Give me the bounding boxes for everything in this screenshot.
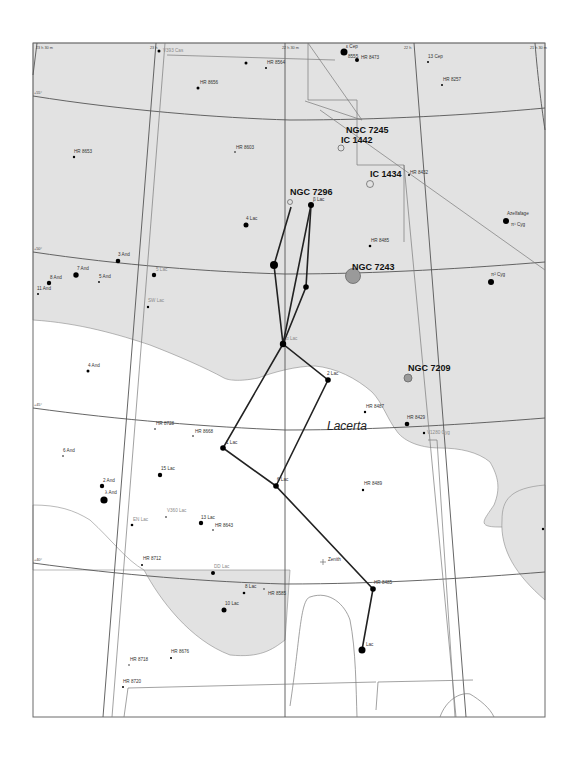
star-icon[interactable] (37, 293, 39, 295)
star-icon[interactable] (341, 49, 348, 56)
star-label: HR 8676 (171, 649, 190, 654)
star-icon[interactable] (405, 422, 410, 427)
star-icon[interactable] (488, 279, 494, 285)
star-icon[interactable] (234, 151, 236, 153)
star-label: ε Cep (346, 44, 358, 49)
star-icon[interactable] (273, 483, 279, 489)
dec-label: +55° (34, 91, 42, 95)
star-icon[interactable] (154, 428, 156, 430)
star-icon[interactable] (192, 435, 194, 437)
star-label: π¹ Cyg (511, 222, 526, 227)
star-label: Azelfafage (507, 211, 529, 216)
star-icon[interactable] (308, 202, 314, 208)
star-icon[interactable] (359, 647, 366, 654)
star-icon[interactable] (158, 50, 161, 53)
star-icon[interactable] (170, 657, 172, 659)
star-label: 1 Lac (226, 440, 238, 445)
star-label: 15 Lac (161, 466, 175, 471)
star-icon[interactable] (131, 524, 134, 527)
star-icon[interactable] (265, 67, 267, 69)
star-label: HR 8728 (156, 421, 175, 426)
star-icon[interactable] (165, 516, 167, 518)
star-icon[interactable] (152, 273, 156, 277)
star-label: HR 8720 (123, 679, 142, 684)
dec-label: +40° (34, 558, 42, 562)
star-label: HR 8643 (215, 523, 234, 528)
star-icon[interactable] (199, 521, 203, 525)
star-icon[interactable] (245, 62, 248, 65)
star-icon[interactable] (280, 341, 286, 347)
star-label: 4 And (88, 363, 100, 368)
star-icon[interactable] (122, 686, 124, 688)
star-icon[interactable] (220, 445, 226, 451)
star-icon[interactable] (325, 377, 331, 383)
star-icon[interactable] (116, 259, 121, 264)
star-chart: NGC 7245 IC 1442 IC 1434 NGC 7296 NGC 72… (0, 0, 574, 763)
star-icon[interactable] (503, 218, 509, 224)
star-icon[interactable] (128, 664, 129, 665)
dso-label-ngc7245[interactable]: NGC 7245 (346, 125, 389, 135)
dso-label-ngc7209[interactable]: NGC 7209 (408, 363, 451, 373)
star-label: 4 Lac (246, 216, 258, 221)
star-icon[interactable] (100, 484, 104, 488)
star-icon[interactable] (362, 489, 364, 491)
star-icon[interactable] (441, 84, 443, 86)
star-icon[interactable] (100, 496, 107, 503)
star-label: SW Lac (148, 298, 165, 303)
star-icon[interactable] (47, 281, 51, 285)
open-cluster-ngc7209-icon[interactable] (404, 374, 412, 382)
star-icon[interactable] (147, 306, 149, 308)
star-icon[interactable] (303, 284, 309, 290)
star-label: HR 8564 (267, 60, 286, 65)
star-label: HR 8718 (130, 657, 149, 662)
star-label: 5 And (99, 274, 111, 279)
star-icon[interactable] (542, 528, 544, 530)
star-label: HR 8485 (371, 238, 390, 243)
star-icon[interactable] (370, 586, 376, 592)
star-label: 6 And (63, 448, 75, 453)
dso-label-ngc7296[interactable]: NGC 7296 (290, 187, 333, 197)
star-icon[interactable] (270, 261, 278, 269)
dec-label: +45° (34, 403, 42, 407)
star-label: V1280 Cyg (427, 430, 450, 435)
star-icon[interactable] (212, 529, 214, 531)
dso-label-ic1442[interactable]: IC 1442 (341, 135, 373, 145)
star-label: 7 And (77, 266, 89, 271)
star-label: HR 8489 (364, 481, 383, 486)
star-icon[interactable] (87, 370, 90, 373)
star-label: Lac (366, 642, 374, 647)
star-icon[interactable] (243, 592, 246, 595)
star-label: HR 8429 (407, 415, 426, 420)
star-label: DD Lac (214, 564, 230, 569)
star-label: 8555 (348, 54, 359, 59)
star-icon[interactable] (197, 87, 200, 90)
star-icon[interactable] (98, 281, 100, 283)
star-icon[interactable] (364, 411, 366, 413)
star-icon[interactable] (73, 156, 75, 158)
star-label: HR 8656 (200, 80, 219, 85)
ra-label: 23 h (150, 46, 157, 50)
star-icon[interactable] (73, 272, 78, 277)
dso-label-ic1434[interactable]: IC 1434 (370, 169, 402, 179)
star-icon[interactable] (263, 588, 264, 589)
star-icon[interactable] (423, 432, 425, 434)
star-label: α Lac (286, 336, 298, 341)
star-icon[interactable] (211, 571, 215, 575)
star-icon[interactable] (158, 473, 162, 477)
star-label: Zenith (328, 557, 341, 562)
star-label: 8 And (50, 275, 62, 280)
star-label: HR 8473 (361, 55, 380, 60)
star-label: λ And (105, 490, 117, 495)
star-icon[interactable] (369, 245, 372, 248)
star-icon[interactable] (62, 455, 64, 457)
star-label: 5 Lac (156, 267, 168, 272)
star-label: HR 8712 (143, 556, 162, 561)
star-icon[interactable] (141, 564, 143, 566)
star-icon[interactable] (244, 223, 249, 228)
star-icon[interactable] (222, 608, 227, 613)
star-label: 2 And (103, 478, 115, 483)
star-label: HR 8603 (236, 145, 255, 150)
star-icon[interactable] (427, 61, 429, 63)
star-label: 8 Lac (245, 584, 257, 589)
dso-label-ngc7243[interactable]: NGC 7243 (352, 262, 395, 272)
